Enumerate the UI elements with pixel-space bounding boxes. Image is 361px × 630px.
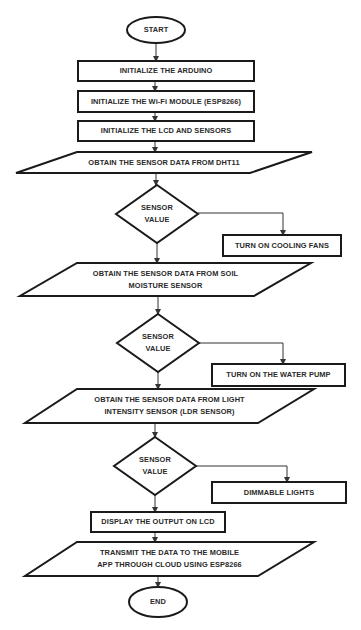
node-label-decision2: SENSOR VALUE	[117, 314, 199, 372]
arrow-decision2-to-water_pump	[199, 343, 283, 364]
node-label-decision3: SENSOR VALUE	[114, 437, 196, 495]
node-label-transmit: TRANSMIT THE DATA TO THE MOBILE APP THRO…	[25, 542, 314, 576]
arrow-decision3-to-dimmable_lights	[196, 466, 287, 482]
node-label-obtain_dht11: OBTAIN THE SENSOR DATA FROM DHT11	[16, 152, 312, 173]
arrow-decision1-to-cooling_fans	[198, 213, 283, 235]
node-label-init_wifi: INITIALIZE THE Wi-Fi MODULE (ESP8266)	[78, 91, 254, 112]
node-label-obtain_soil: OBTAIN THE SENSOR DATA FROM SOIL MOISTUR…	[20, 263, 311, 296]
node-label-end: END	[129, 587, 187, 617]
node-label-init_arduino: INITIALIZE THE ARDUINO	[78, 61, 254, 81]
node-label-obtain_ldr: OBTAIN THE SENSOR DATA FROM LIGHT INTENS…	[25, 389, 314, 423]
node-label-water_pump: TURN ON THE WATER PUMP	[212, 364, 345, 386]
node-label-display_lcd: DISPLAY THE OUTPUT ON LCD	[91, 512, 225, 532]
node-label-init_lcd: INITIALIZE THE LCD AND SENSORS	[78, 121, 254, 141]
node-label-decision1: SENSOR VALUE	[116, 185, 198, 243]
node-label-start: START	[127, 17, 185, 43]
node-label-cooling_fans: TURN ON COOLING FANS	[223, 235, 341, 256]
node-label-dimmable_lights: DIMMABLE LIGHTS	[212, 482, 346, 503]
